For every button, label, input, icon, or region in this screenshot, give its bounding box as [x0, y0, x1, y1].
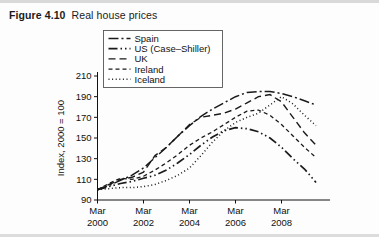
x-tick-label-year: 2000	[87, 217, 108, 228]
y-axis-title: Index, 2000 = 100	[55, 100, 66, 176]
y-tick-label: 190	[76, 91, 92, 102]
x-tick-label-month: Mar	[273, 205, 289, 216]
y-tick-label: 210	[76, 70, 92, 81]
series-line-iceland	[98, 97, 317, 190]
y-tick-label: 170	[76, 112, 92, 123]
y-tick-label: 130	[76, 153, 92, 164]
legend-label: Iceland	[135, 74, 166, 85]
x-tick-label-year: 2002	[133, 217, 154, 228]
x-tick-label-month: Mar	[89, 205, 105, 216]
x-tick-label-year: 2004	[179, 217, 200, 228]
line-chart: 90110130150170190210Index, 2000 = 100Mar…	[0, 0, 379, 237]
series-group	[98, 92, 317, 190]
x-tick-label-month: Mar	[227, 205, 243, 216]
x-tick-label-month: Mar	[135, 205, 151, 216]
series-line-uk	[98, 95, 317, 190]
legend: SpainUS (Case–Shiller)UKIrelandIceland	[104, 31, 223, 88]
series-line-us-case-shiller	[98, 128, 317, 190]
y-tick-label: 110	[76, 174, 91, 185]
x-tick-label-year: 2006	[225, 217, 246, 228]
y-tick-label: 90	[81, 194, 92, 205]
y-tick-label: 150	[76, 132, 92, 143]
x-tick-label-year: 2008	[271, 217, 292, 228]
x-tick-label-month: Mar	[181, 205, 197, 216]
figure-page: Figure 4.10Real house prices 90110130150…	[0, 0, 379, 237]
